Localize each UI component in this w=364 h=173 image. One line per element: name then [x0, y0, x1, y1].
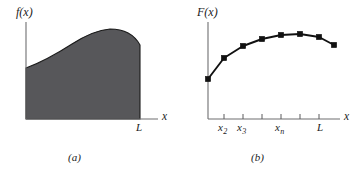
tick-x3-sub: 3 — [242, 127, 246, 136]
panel-b-tick-marks — [224, 114, 319, 119]
panel-b-x-axis-label: x — [344, 111, 349, 123]
shaded-area-region — [26, 29, 140, 119]
figure-container: f(x) x L (a) — [0, 0, 364, 173]
data-point-marker — [316, 34, 321, 39]
tick-x2-sub: 2 — [223, 127, 227, 136]
tick-xn-sub: n — [280, 127, 284, 136]
panel-a-caption: (a) — [68, 152, 81, 163]
panel-a-plot — [0, 0, 182, 173]
data-point-marker — [297, 31, 302, 36]
panel-b-data-markers — [205, 31, 336, 81]
data-point-marker — [221, 55, 226, 60]
panel-b-tick-label-xn: xn — [275, 122, 284, 133]
data-point-marker — [205, 76, 210, 81]
panel-b-tick-label-L: L — [317, 122, 323, 133]
data-point-marker — [240, 43, 245, 48]
data-point-marker — [278, 32, 283, 37]
panel-a-x-axis-label: x — [162, 111, 167, 123]
panel-b-caption: (b) — [251, 152, 264, 163]
panel-b-tick-label-x2: x2 — [218, 122, 227, 133]
panel-b-plot — [182, 0, 364, 173]
data-point-marker — [259, 36, 264, 41]
panel-a-tick-label-L: L — [136, 122, 142, 133]
panel-b: F(x) x x2 x3 xn L (b) — [182, 0, 364, 173]
panel-a-y-axis-label: f(x) — [16, 6, 33, 18]
panel-b-tick-label-x3: x3 — [237, 122, 246, 133]
panel-a: f(x) x L (a) — [0, 0, 182, 173]
panel-b-y-axis-label: F(x) — [197, 6, 218, 18]
data-point-marker — [331, 42, 336, 47]
